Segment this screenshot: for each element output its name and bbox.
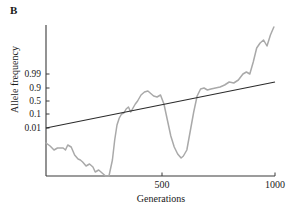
x-tick-label: 500 (137, 179, 187, 190)
x-tick-label: 1000 (250, 179, 287, 190)
x-axis-title: Generations (46, 193, 276, 204)
figure-panel-b: B 0.990.90.50.10.01 5001000 Allele frequ… (0, 0, 287, 212)
y-axis-title: Allele frequency (9, 20, 20, 140)
x-axis-tick-labels: 5001000 (0, 0, 287, 212)
